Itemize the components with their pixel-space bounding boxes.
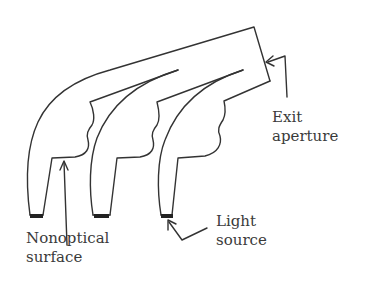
- nonoptical-surface-line1: Nonoptical: [26, 229, 109, 248]
- leg2-left-edge: [90, 70, 178, 215]
- nonoptical-surface-line2: surface: [26, 248, 109, 267]
- light-source-3: [161, 214, 173, 218]
- light-source-2: [94, 214, 109, 218]
- light-source-line2: source: [216, 231, 267, 250]
- exit-aperture-line1: Exit: [272, 108, 338, 127]
- leg2-right-edge: [110, 70, 243, 215]
- nonoptical-surface-label: Nonoptical surface: [26, 229, 109, 267]
- exit-aperture-label: Exit aperture: [272, 108, 338, 146]
- outer-boundary: [27, 27, 270, 215]
- light-source-1: [30, 214, 43, 218]
- light-source-label: Light source: [216, 212, 267, 250]
- exit-aperture-line2: aperture: [272, 127, 338, 146]
- leg3-right-edge: [172, 81, 270, 215]
- light-source-leader: [169, 222, 207, 240]
- exit-aperture-leader: [268, 56, 287, 97]
- light-source-line1: Light: [216, 212, 267, 231]
- leg3-left-edge: [158, 70, 243, 215]
